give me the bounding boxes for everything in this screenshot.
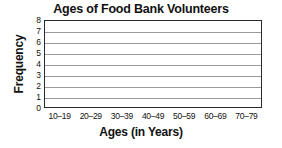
chart-title: Ages of Food Bank Volunteers	[0, 2, 282, 16]
bar-slot	[230, 21, 261, 107]
y-axis-tick-label: 2	[28, 82, 41, 90]
bar-slot	[76, 21, 107, 107]
x-axis-tick-label: 50–59	[169, 110, 200, 122]
bar-slot	[138, 21, 169, 107]
y-axis-tick-label: 7	[28, 27, 41, 35]
y-axis-tick-labels: 012345678	[28, 20, 41, 108]
x-axis-tick-label: 30–39	[106, 110, 137, 122]
bar-slot	[107, 21, 138, 107]
y-axis-tick-label: 3	[28, 71, 41, 79]
y-axis-title-text: Frequency	[12, 35, 26, 94]
y-axis-tick-label: 6	[28, 38, 41, 46]
bar-slot	[168, 21, 199, 107]
y-axis-tick-label: 5	[28, 49, 41, 57]
chart-figure: Ages of Food Bank Volunteers Frequency 0…	[0, 0, 282, 148]
x-axis-tick-labels: 10–1920–2930–3940–4950–5960–6970–79	[44, 110, 262, 122]
bar-slot	[45, 21, 76, 107]
plot-area	[44, 20, 262, 108]
y-axis-title: Frequency	[12, 20, 26, 108]
y-axis-tick-label: 4	[28, 60, 41, 68]
bar-slot	[199, 21, 230, 107]
y-axis-tick-label: 8	[28, 16, 41, 24]
x-axis-tick-label: 60–69	[200, 110, 231, 122]
x-axis-tick-label: 10–19	[44, 110, 75, 122]
x-axis-tick-label: 70–79	[231, 110, 262, 122]
x-axis-title: Ages (in Years)	[0, 125, 282, 139]
x-axis-tick-label: 40–49	[137, 110, 168, 122]
y-axis-tick-label: 1	[28, 93, 41, 101]
x-axis-tick-label: 20–29	[75, 110, 106, 122]
bars-layer	[45, 21, 261, 107]
y-axis-tick-label: 0	[28, 104, 41, 112]
